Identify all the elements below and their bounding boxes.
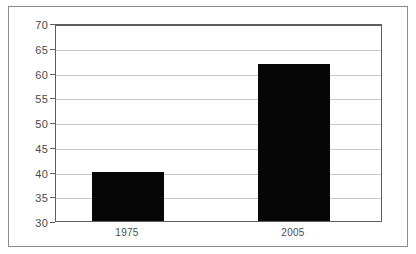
y-tick-label-35: 35 bbox=[35, 193, 48, 204]
plot-area bbox=[55, 24, 382, 222]
y-tick-label-65: 65 bbox=[35, 45, 48, 56]
gridline-60 bbox=[56, 75, 381, 76]
bar-2005[interactable] bbox=[258, 64, 330, 221]
y-axis-tick-labels: 70 65 60 55 50 45 40 35 30 bbox=[12, 24, 48, 222]
y-tick-label-50: 50 bbox=[35, 119, 48, 130]
bar-chart-figure: 70 65 60 55 50 45 40 35 30 1975 bbox=[0, 0, 416, 254]
y-tick-label-40: 40 bbox=[35, 169, 48, 180]
y-tick-mark-30 bbox=[50, 222, 55, 223]
y-tick-label-70: 70 bbox=[35, 20, 48, 31]
gridline-30-baseline bbox=[56, 221, 381, 222]
gridline-45 bbox=[56, 149, 381, 150]
gridline-65 bbox=[56, 50, 381, 51]
x-tick-label-1975: 1975 bbox=[91, 228, 163, 238]
gridline-50 bbox=[56, 124, 381, 125]
x-tick-label-2005: 2005 bbox=[257, 228, 329, 238]
x-axis-tick-labels: 1975 2005 bbox=[55, 228, 382, 242]
bar-1975[interactable] bbox=[92, 172, 164, 221]
y-tick-label-60: 60 bbox=[35, 70, 48, 81]
gridline-55 bbox=[56, 99, 381, 100]
y-tick-label-55: 55 bbox=[35, 94, 48, 105]
y-tick-label-30: 30 bbox=[35, 218, 48, 229]
gridline-70 bbox=[56, 25, 381, 26]
y-tick-label-45: 45 bbox=[35, 144, 48, 155]
